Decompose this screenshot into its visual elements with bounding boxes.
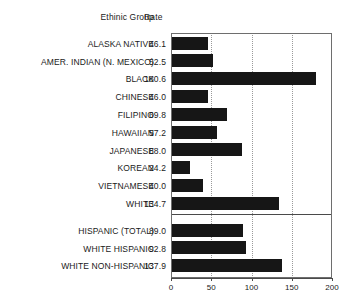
column-header-rate: Rate xyxy=(144,12,163,22)
row-value: 52.5 xyxy=(139,57,166,67)
row-value: 57.2 xyxy=(139,128,166,138)
x-tick-label: 50 xyxy=(207,283,216,292)
bar xyxy=(171,108,227,121)
gridline-150 xyxy=(292,33,294,278)
row-value: 180.6 xyxy=(139,74,166,84)
row-value: 46.0 xyxy=(139,92,166,102)
gridline-100 xyxy=(252,33,254,278)
bar xyxy=(171,126,217,139)
row-value: 137.9 xyxy=(139,261,166,271)
bar xyxy=(171,179,203,192)
row-label: AMER. INDIAN (N. MEXICO) xyxy=(41,57,154,67)
x-tick-200 xyxy=(332,278,333,281)
row-value: 89.0 xyxy=(139,226,166,236)
bar xyxy=(171,54,213,67)
bar xyxy=(171,90,208,103)
row-value: 134.7 xyxy=(139,199,166,209)
x-tick-150 xyxy=(292,278,293,281)
bar xyxy=(171,37,208,50)
x-tick-0 xyxy=(171,278,172,281)
x-tick-50 xyxy=(211,278,212,281)
bar xyxy=(171,197,279,210)
row-value: 24.2 xyxy=(139,163,166,173)
x-tick-100 xyxy=(252,278,253,281)
plot-area xyxy=(171,33,332,278)
bar xyxy=(171,161,190,174)
bar xyxy=(171,241,246,254)
row-value: 46.1 xyxy=(139,39,166,49)
bar xyxy=(171,259,282,272)
group-separator-line xyxy=(171,214,332,215)
bar xyxy=(171,224,243,237)
x-tick-label: 200 xyxy=(325,283,338,292)
x-tick-label: 100 xyxy=(245,283,258,292)
bar xyxy=(171,72,316,85)
bar xyxy=(171,143,242,156)
x-tick-label: 0 xyxy=(169,283,173,292)
ethnic-group-rate-bar-chart: Ethinic Group Rate ALASKA NATIVE46.1AMER… xyxy=(0,0,353,308)
row-value: 92.8 xyxy=(139,244,166,254)
row-value: 40.0 xyxy=(139,181,166,191)
row-value: 69.8 xyxy=(139,110,166,120)
x-tick-label: 150 xyxy=(285,283,298,292)
row-value: 88.0 xyxy=(139,146,166,156)
